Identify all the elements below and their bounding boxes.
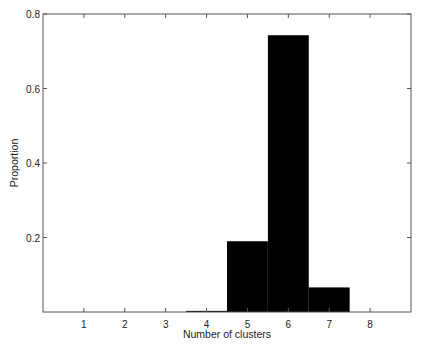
x-tick-label: 2 [122,319,128,330]
x-axis-label: Number of clusters [183,328,271,340]
y-axis-ticks: 0.20.40.60.8 [26,9,411,244]
bar-6 [268,35,309,312]
x-tick-label: 1 [81,319,87,330]
y-tick-label: 0.2 [26,233,40,244]
y-axis-label: Proportion [8,139,20,188]
bars-group [186,35,350,312]
bar-5 [227,241,268,312]
x-tick-label: 8 [367,319,373,330]
y-tick-label: 0.6 [26,84,40,95]
x-tick-label: 6 [286,319,292,330]
x-tick-label: 7 [326,319,332,330]
y-tick-label: 0.4 [26,158,40,169]
y-tick-label: 0.8 [26,9,40,20]
x-tick-label: 3 [163,319,169,330]
histogram-chart: 12345678 0.20.40.60.8 Number of clusters… [0,0,422,353]
